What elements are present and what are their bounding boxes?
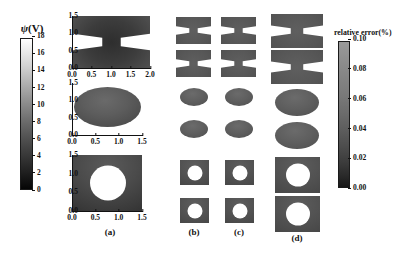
y-tick-label: 0.5 — [69, 114, 70, 122]
tile-d-hourglass-1 — [271, 14, 323, 48]
error-square-hole — [225, 160, 254, 185]
tile-d-ellipse-2 — [275, 122, 319, 149]
tile-d-hourglass-2 — [271, 50, 323, 84]
potential-colorbar-title: ψ(V) — [6, 22, 58, 34]
tick-label: 2 — [37, 169, 41, 177]
tick-mark — [111, 66, 112, 69]
error-square-hole — [275, 157, 320, 193]
subplot-a-hourglass: 0.00.51.01.52.01.51.00.50.0 — [72, 16, 150, 68]
tick-mark — [348, 128, 351, 129]
tick-label: 0.04 — [353, 125, 366, 133]
tick-mark — [150, 66, 151, 69]
tick-label: 8 — [37, 118, 41, 126]
tile-b-ellipse-2 — [180, 120, 208, 138]
tile-b-hourglass-2 — [176, 50, 211, 77]
subplot-a-square-hole: 0.00.51.01.51.51.00.50.0 — [72, 155, 142, 211]
tick-mark — [95, 209, 96, 212]
error-hourglass — [271, 50, 323, 84]
tick-label: 0.08 — [353, 65, 366, 73]
tick-mark — [348, 39, 351, 40]
tick-label: 14 — [37, 66, 45, 74]
caption-b: (b) — [189, 228, 200, 237]
y-tick-label: 1.0 — [69, 170, 70, 178]
error-square-hole — [225, 198, 254, 223]
circular-hole — [232, 165, 247, 180]
tile-c-ellipse-1 — [225, 88, 253, 106]
error-square-hole — [180, 198, 209, 223]
x-tick-label: 1.5 — [137, 214, 146, 222]
tick-label: 18 — [37, 32, 45, 40]
tick-mark — [119, 133, 120, 136]
caption-c: (c) — [234, 228, 244, 237]
circular-hole — [187, 203, 202, 218]
y-tick-label: 1.5 — [69, 151, 70, 159]
figure-canvas: ψ(V) 181614121086420 relative error(%) 0… — [0, 0, 405, 262]
x-tick-label: 1.0 — [114, 138, 123, 146]
potential-colorbar: ψ(V) 181614121086420 — [6, 22, 62, 202]
tick-mark — [32, 104, 35, 105]
error-ellipse — [225, 88, 253, 106]
x-tick-label: 1.5 — [137, 138, 146, 146]
tick-mark — [32, 190, 35, 191]
error-square-hole — [275, 196, 320, 232]
tile-c-hourglass-2 — [221, 50, 256, 77]
x-tick-label: 1.5 — [126, 71, 135, 79]
tick-mark — [348, 158, 351, 159]
x-tick-label: 1.0 — [106, 71, 115, 79]
error-hourglass — [221, 50, 256, 77]
x-tick-label: 0.5 — [91, 138, 100, 146]
tick-mark — [348, 188, 351, 189]
tick-mark — [92, 66, 93, 69]
error-ellipse — [180, 120, 208, 138]
tick-mark — [119, 209, 120, 212]
tick-mark — [95, 133, 96, 136]
y-tick-label: 0.5 — [69, 189, 70, 197]
tick-mark — [32, 53, 35, 54]
x-tick-label: 2.0 — [145, 71, 154, 79]
y-tick-label: 0.0 — [69, 64, 70, 72]
error-hourglass — [271, 14, 323, 48]
field-square-hole — [73, 155, 142, 211]
tick-mark — [32, 36, 35, 37]
error-ellipse — [180, 88, 208, 106]
y-tick-label: 1.5 — [69, 79, 70, 87]
tick-mark — [142, 133, 143, 136]
y-tick-label: 0.0 — [69, 131, 70, 139]
tile-d-square-hole-2 — [275, 196, 320, 232]
tick-mark — [142, 209, 143, 212]
tick-label: 0.10 — [353, 35, 366, 43]
y-tick-label: 0.5 — [69, 47, 70, 55]
y-tick-label: 0.0 — [69, 207, 70, 215]
error-ellipse — [275, 122, 319, 149]
tick-label: 16 — [37, 49, 45, 57]
error-colorbar-title: relative error(%) — [334, 28, 404, 37]
error-square-hole — [180, 160, 209, 185]
tile-c-square-hole-2 — [225, 198, 254, 223]
plot-area — [73, 155, 142, 211]
tick-mark — [32, 155, 35, 156]
tick-label: 6 — [37, 135, 41, 143]
field-hourglass — [73, 16, 150, 68]
tile-b-ellipse-1 — [180, 88, 208, 106]
tick-mark — [32, 87, 35, 88]
tick-label: 12 — [37, 84, 45, 92]
y-tick-label: 1.0 — [69, 30, 70, 38]
y-tick-label: 1.0 — [69, 97, 70, 105]
error-hourglass — [176, 50, 211, 77]
error-hourglass — [176, 17, 211, 44]
error-ellipse — [275, 89, 319, 116]
error-colorbar: relative error(%) 0.100.080.060.040.020.… — [334, 28, 404, 204]
caption-a: (a) — [105, 228, 116, 237]
caption-d: (d) — [292, 234, 303, 243]
tick-label: 0 — [37, 186, 41, 194]
tick-mark — [32, 121, 35, 122]
plot-area — [73, 16, 150, 68]
tile-c-ellipse-2 — [225, 120, 253, 138]
tick-mark — [131, 66, 132, 69]
field-ellipse — [74, 87, 141, 127]
tick-label: 0.00 — [353, 184, 366, 192]
tick-label: 0.02 — [353, 154, 366, 162]
tile-b-hourglass-1 — [176, 17, 211, 44]
tile-d-ellipse-1 — [275, 89, 319, 116]
tile-b-square-hole-2 — [180, 198, 209, 223]
